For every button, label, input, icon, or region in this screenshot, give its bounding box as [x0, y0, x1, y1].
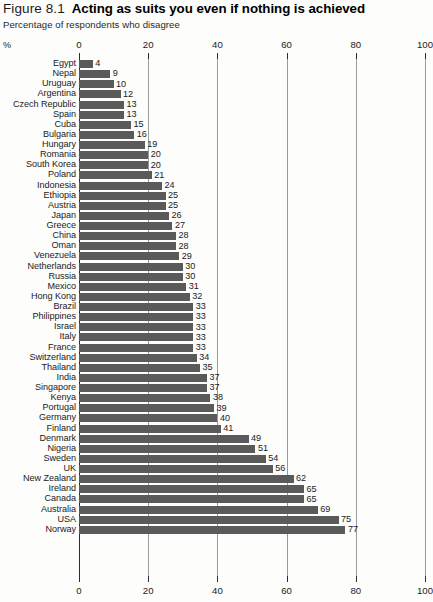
bar-value-label: 15 [133, 120, 143, 129]
bar-value-label: 20 [151, 161, 161, 170]
bar-row: Norway77 [0, 525, 428, 535]
bar-value-label: 9 [113, 69, 118, 78]
bar-and-value: 35 [79, 363, 213, 373]
bar-value-label: 69 [320, 505, 330, 514]
bar-value-label: 30 [185, 272, 195, 281]
bar [79, 171, 152, 179]
bar-and-value: 19 [79, 140, 157, 150]
bar-value-label: 19 [147, 140, 157, 149]
bar-value-label: 75 [341, 515, 351, 524]
bar [79, 263, 183, 271]
bar-and-value: 33 [79, 332, 206, 342]
bar [79, 60, 93, 68]
bar-and-value: 10 [79, 79, 126, 89]
bar-and-value: 62 [79, 474, 306, 484]
bar-value-label: 41 [223, 424, 233, 433]
x-tick-label-top: 80 [350, 39, 361, 50]
bar-and-value: 30 [79, 272, 195, 282]
bar-and-value: 32 [79, 292, 202, 302]
bar-value-label: 38 [213, 393, 223, 402]
x-tick-mark-bottom [217, 576, 218, 582]
x-tick-label-bottom: 60 [281, 585, 292, 596]
bar-value-label: 33 [196, 312, 206, 321]
bar-value-label: 20 [151, 150, 161, 159]
bar-and-value: 20 [79, 160, 161, 170]
bar-and-value: 25 [79, 191, 178, 201]
bar [79, 435, 249, 443]
bar-value-label: 35 [203, 363, 213, 372]
bar [79, 445, 255, 453]
bar-value-label: 26 [171, 211, 181, 220]
bar-value-label: 13 [126, 100, 136, 109]
x-tick-label-bottom: 0 [76, 585, 81, 596]
bar-value-label: 56 [275, 464, 285, 473]
bar [79, 252, 179, 260]
bar-and-value: 65 [79, 484, 316, 494]
bar-and-value: 33 [79, 343, 206, 353]
bar-and-value: 12 [79, 89, 133, 99]
bar [79, 323, 193, 331]
bar [79, 455, 266, 463]
bar-and-value: 37 [79, 373, 220, 383]
bar-and-value: 27 [79, 221, 185, 231]
bar [79, 151, 148, 159]
bar-and-value: 34 [79, 353, 209, 363]
x-tick-label-bottom: 80 [350, 585, 361, 596]
bar-and-value: 33 [79, 302, 206, 312]
bar [79, 303, 193, 311]
x-tick-mark-bottom [148, 576, 149, 582]
bar [79, 293, 190, 301]
bar-value-label: 13 [126, 110, 136, 119]
bar [79, 121, 131, 129]
bar-and-value: 37 [79, 383, 220, 393]
x-tick-label-top: 40 [212, 39, 223, 50]
x-tick-mark-bottom [79, 576, 80, 582]
bar-and-value: 21 [79, 170, 164, 180]
bar [79, 242, 176, 250]
bar-and-value: 31 [79, 282, 199, 292]
bar [79, 273, 183, 281]
bar-value-label: 30 [185, 262, 195, 271]
bar [79, 526, 345, 534]
bar [79, 506, 318, 514]
bar-and-value: 56 [79, 464, 285, 474]
bar [79, 516, 339, 524]
bar [79, 70, 110, 78]
x-tick-mark-bottom [287, 576, 288, 582]
bar-and-value: 75 [79, 515, 351, 525]
bar-and-value: 39 [79, 403, 226, 413]
bar [79, 414, 217, 422]
bar [79, 425, 221, 433]
bar [79, 374, 207, 382]
bar-and-value: 28 [79, 241, 188, 251]
bar-and-value: 33 [79, 322, 206, 332]
bar [79, 131, 134, 139]
bar [79, 384, 207, 392]
bar-value-label: 32 [192, 292, 202, 301]
bar-and-value: 9 [79, 69, 118, 79]
x-tick-label-top: 60 [281, 39, 292, 50]
bar-value-label: 51 [258, 444, 268, 453]
bar-and-value: 38 [79, 393, 223, 403]
bar [79, 313, 193, 321]
bar [79, 141, 145, 149]
bar-and-value: 69 [79, 505, 330, 515]
bar-and-value: 15 [79, 120, 143, 130]
bar-value-label: 34 [199, 353, 209, 362]
bar-and-value: 28 [79, 231, 188, 241]
bar [79, 475, 294, 483]
bar [79, 404, 214, 412]
bar-value-label: 40 [220, 414, 230, 423]
bar-and-value: 30 [79, 262, 195, 272]
bar-value-label: 37 [210, 383, 220, 392]
x-tick-label-top: 100 [417, 39, 433, 50]
bar [79, 344, 193, 352]
axis-unit-label: % [3, 40, 11, 50]
bar [79, 101, 124, 109]
bar-value-label: 65 [306, 495, 316, 504]
bar-value-label: 24 [165, 181, 175, 190]
bar [79, 364, 200, 372]
bar [79, 161, 148, 169]
bar [79, 111, 124, 119]
